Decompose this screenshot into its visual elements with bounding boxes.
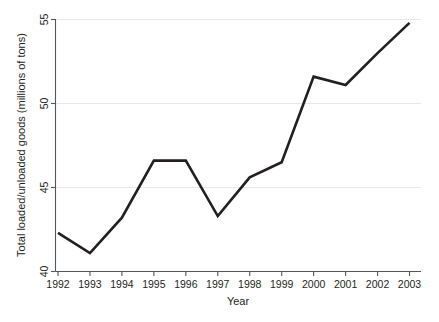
x-tick-label: 1992: [46, 278, 70, 290]
y-tick-label: 50: [38, 98, 50, 110]
y-axis-title: Total loaded/unloaded goods (millions of…: [15, 33, 27, 257]
x-tick-label: 2000: [302, 278, 326, 290]
x-tick-label: 1996: [174, 278, 198, 290]
chart-figure: 40455055 1992199319941995199619971998199…: [0, 0, 439, 322]
x-tick-label: 1994: [110, 278, 134, 290]
x-tick-label: 2002: [366, 278, 390, 290]
x-tick-label: 1998: [238, 278, 262, 290]
x-tick-label: 1995: [142, 278, 166, 290]
y-tick-label: 40: [38, 266, 50, 278]
y-tick-label: 45: [38, 182, 50, 194]
line-chart-svg: 40455055 1992199319941995199619971998199…: [0, 0, 439, 322]
y-tick-label: 55: [38, 14, 50, 26]
x-tick-label: 2003: [398, 278, 422, 290]
x-tick-label: 1993: [78, 278, 102, 290]
x-axis-title: Year: [227, 295, 250, 307]
x-tick-label: 1999: [270, 278, 294, 290]
x-tick-label: 2001: [334, 278, 358, 290]
chart-background: [0, 0, 439, 322]
x-tick-label: 1997: [206, 278, 230, 290]
